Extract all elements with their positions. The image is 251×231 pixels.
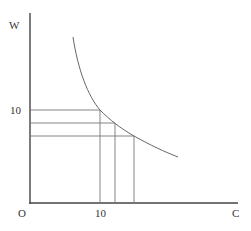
y-axis-label: W: [9, 19, 20, 31]
y-tick-label-10: 10: [10, 104, 22, 116]
x-axis-label: C: [232, 207, 239, 219]
chart: W 10 O 10 C: [0, 0, 251, 231]
x-tick-label-10: 10: [95, 207, 107, 219]
indifference-curve: [73, 37, 178, 157]
origin-label: O: [18, 207, 26, 219]
